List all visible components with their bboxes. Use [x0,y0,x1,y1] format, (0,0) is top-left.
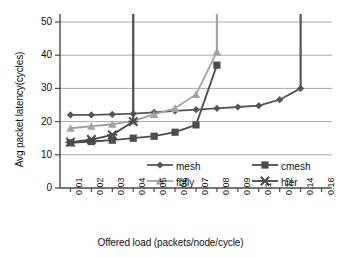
legend-label-cmesh: cmesh [281,161,310,172]
x-axis-title: Offered load (packets/node/cycle) [0,237,341,248]
chart-container: 01020304050 0.010.020.030.040.050.060.07… [0,0,341,257]
x-tick-label: 0.14 [305,177,315,195]
x-tick-label: 0.03 [116,177,126,195]
x-tick-label: 0.09 [242,177,252,195]
x-tick-label: 0.07 [200,177,210,195]
legend-label-hier: hier [281,177,298,188]
x-tick-label: 0.08 [221,177,231,195]
x-tick-label: 0.02 [95,177,105,195]
legend-label-mesh: mesh [176,161,200,172]
x-tick-label: 0.16 [326,177,336,195]
x-tick-label: 0.01 [74,177,84,195]
x-axis-tick-labels: 0.010.020.030.040.050.060.070.080.090.10… [0,0,341,257]
x-tick-label: 0.04 [137,177,147,195]
x-tick-label: 0.1 [263,182,273,195]
x-tick-label: 0.05 [158,177,168,195]
legend-label-fbfly: fbfly [176,177,194,188]
y-axis-title: Avg packet latency(cycles) [14,35,25,185]
